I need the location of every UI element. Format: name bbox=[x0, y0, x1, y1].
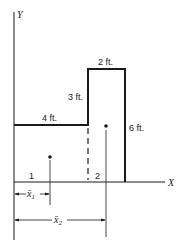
x-bar-1-label: x̄1 bbox=[26, 188, 35, 201]
y-axis-label: Y bbox=[17, 9, 24, 20]
x-bar-2-label: x̄2 bbox=[53, 214, 62, 227]
region-2-label: 2 bbox=[95, 171, 100, 181]
centroid-2-dot bbox=[104, 124, 108, 128]
dimension-left-top: 4 ft. bbox=[42, 113, 57, 123]
shape-outline bbox=[14, 69, 125, 182]
x-axis-label: X bbox=[167, 177, 175, 188]
centroid-1-dot bbox=[48, 155, 52, 159]
composite-area-diagram: Y X 4 ft. 3 ft. 2 ft. 6 ft. 1 2 x̄1 x̄2 bbox=[0, 0, 182, 247]
region-1-label: 1 bbox=[29, 171, 34, 181]
dimension-step-height: 3 ft. bbox=[68, 92, 83, 102]
dimension-right-height: 6 ft. bbox=[129, 123, 144, 133]
dimension-right-top: 2 ft. bbox=[98, 57, 113, 67]
